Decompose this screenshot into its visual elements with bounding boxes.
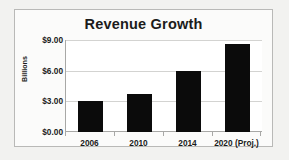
- plot-area: [65, 40, 262, 132]
- x-axis-tick-labels: 2006 2010 2014 2020 (Proj.): [65, 136, 261, 150]
- y-tick-label-3: $3.00: [23, 95, 63, 107]
- x-tick-label-2006: 2006: [65, 136, 114, 150]
- y-tick-label-0: $0.00: [23, 126, 63, 138]
- bar-2010[interactable]: [127, 94, 152, 132]
- x-tick-label-2014: 2014: [163, 136, 212, 150]
- bar-slot-2014: [164, 40, 213, 132]
- y-tick-label-6: $6.00: [23, 65, 63, 77]
- y-axis-tick-labels: $9.00 $6.00 $3.00 $0.00: [15, 10, 63, 146]
- bar-slot-2010: [115, 40, 164, 132]
- y-tick-label-9: $9.00: [23, 34, 63, 46]
- bar-2020-proj[interactable]: [225, 44, 250, 132]
- bar-slot-2006: [66, 40, 115, 132]
- chart-container: Revenue Growth Billions $9.00 $6.00 $3.0…: [14, 9, 273, 147]
- bar-series: [66, 40, 262, 132]
- x-tick-label-2010: 2010: [114, 136, 163, 150]
- bar-2006[interactable]: [78, 101, 103, 132]
- bar-2014[interactable]: [176, 71, 201, 132]
- bar-slot-2020: [213, 40, 262, 132]
- x-tick-label-2020: 2020 (Proj.): [212, 136, 261, 150]
